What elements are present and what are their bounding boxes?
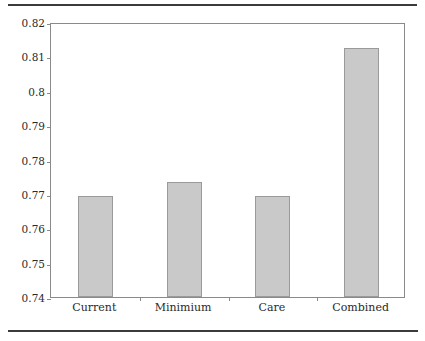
y-axis-tick-label: 0.8	[5, 87, 45, 98]
bar-combined	[344, 48, 379, 297]
y-axis-tick-mark	[47, 230, 51, 231]
figure-container: 0.740.750.760.770.780.790.80.810.82 Curr…	[0, 0, 425, 341]
plot-area	[50, 23, 405, 298]
y-axis-tick-label: 0.76	[5, 224, 45, 235]
x-axis-tick-mark	[229, 297, 230, 301]
y-axis-tick-mark	[47, 196, 51, 197]
y-axis-tick-mark	[47, 58, 51, 59]
x-axis-tick-label: Combined	[316, 302, 405, 314]
y-axis-tick-label: 0.77	[5, 190, 45, 201]
y-axis-tick-mark	[47, 24, 51, 25]
y-axis-tick-mark	[47, 127, 51, 128]
x-axis-tick-label: Care	[228, 302, 317, 314]
y-axis-tick-label: 0.81	[5, 52, 45, 63]
x-axis-tick-label: Minimium	[139, 302, 228, 314]
figure-top-rule	[8, 4, 417, 6]
y-axis-tick-label: 0.79	[5, 121, 45, 132]
figure-bottom-rule	[8, 330, 418, 332]
x-axis-tick-label: Current	[50, 302, 139, 314]
y-axis-tick-label: 0.78	[5, 156, 45, 167]
y-axis-tick-mark	[47, 93, 51, 94]
y-axis-tick-mark	[47, 265, 51, 266]
x-axis-tick-mark	[140, 297, 141, 301]
x-axis-tick-mark	[317, 297, 318, 301]
y-axis-tick-label: 0.74	[5, 293, 45, 304]
bar-current	[78, 196, 113, 297]
y-axis-tick-label: 0.75	[5, 259, 45, 270]
y-axis-tick-label: 0.82	[5, 18, 45, 29]
bar-care	[255, 196, 290, 297]
bar-minimium	[167, 182, 202, 297]
y-axis-tick-mark	[47, 162, 51, 163]
y-axis-tick-mark	[47, 299, 51, 300]
